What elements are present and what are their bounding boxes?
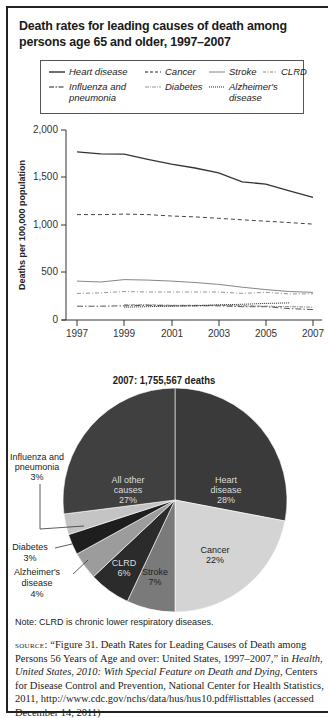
pie-label-diabetes: Diabetes3%	[12, 542, 48, 563]
source-citation: source: “Figure 31. Death Rates for Lead…	[15, 638, 325, 718]
series-lines	[77, 152, 313, 310]
leader-line-diabetes	[55, 544, 72, 548]
series-line-clrd	[77, 292, 313, 294]
pie-label-alz: Alzheimer'sdisease4%	[14, 567, 61, 599]
series-line-cancer	[77, 214, 313, 224]
svg-text:500: 500	[41, 266, 58, 277]
pie-slices	[63, 388, 287, 612]
svg-text:2007: 2007	[302, 328, 325, 339]
svg-text:2001: 2001	[161, 328, 184, 339]
y-ticks: 2,000 1,500 1,000 500 0	[33, 124, 66, 325]
svg-text:1,500: 1,500	[33, 171, 58, 182]
svg-text:0: 0	[52, 314, 58, 325]
pie-label-flu: Influenza andpneumonia3%	[10, 452, 64, 482]
svg-text:2003: 2003	[208, 328, 231, 339]
svg-text:2,000: 2,000	[33, 124, 58, 135]
series-line-heart-disease	[77, 152, 313, 198]
source-label: source:	[15, 639, 48, 650]
series-line-stroke	[77, 280, 313, 293]
y-axis-label: Deaths per 100,000 population	[17, 160, 27, 290]
footnote: Note: CLRD is chronic lower respiratory …	[15, 617, 214, 627]
x-ticks: 1997 1999 2001 2003 2005 2007	[66, 320, 325, 339]
pie-chart: All othercauses27% Heartdisease28% Cance…	[0, 380, 328, 620]
svg-text:2005: 2005	[255, 328, 278, 339]
svg-text:1,000: 1,000	[33, 219, 58, 230]
svg-text:1999: 1999	[113, 328, 136, 339]
line-chart: 2,000 1,500 1,000 500 0 1997 1999 2001 2…	[0, 0, 328, 340]
svg-text:1997: 1997	[66, 328, 89, 339]
